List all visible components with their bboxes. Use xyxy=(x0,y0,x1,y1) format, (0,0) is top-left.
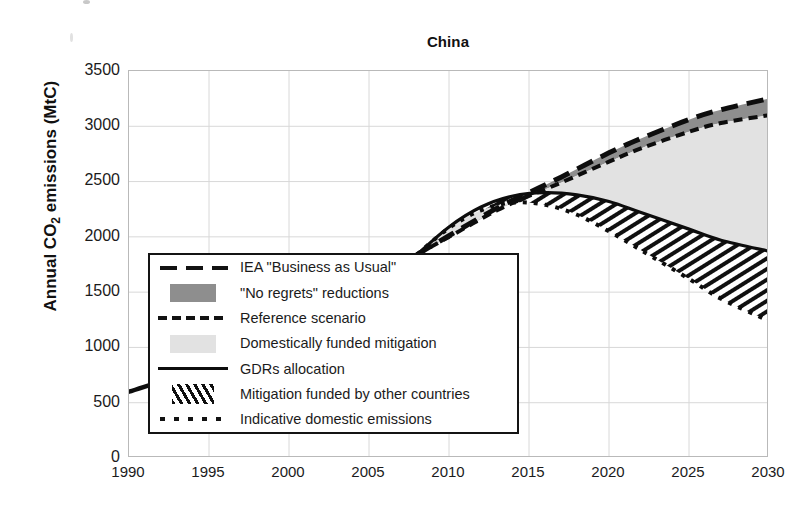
legend-item-reference-scenario[interactable]: Reference scenario xyxy=(150,306,517,331)
solid-line-icon xyxy=(158,359,232,379)
x-tick-label: 2010 xyxy=(413,463,483,480)
x-tick-label: 2005 xyxy=(333,463,403,480)
legend-item-indicative-domestic-emissions[interactable]: Indicative domestic emissions xyxy=(150,407,517,432)
figure-container: China Annual CO2 emissions (MtC) 3500 30… xyxy=(0,0,805,521)
dashed-long-line-icon xyxy=(158,258,232,278)
chart-legend[interactable]: IEA "Business as Usual" "No regrets" red… xyxy=(148,253,519,434)
x-tick-label: 2025 xyxy=(653,463,723,480)
x-tick-label: 1990 xyxy=(93,463,163,480)
x-tick-label: 2015 xyxy=(493,463,563,480)
legend-label: "No regrets" reductions xyxy=(240,286,389,301)
legend-label: GDRs allocation xyxy=(240,362,345,377)
y-axis-ticks: 3500 3000 2500 2000 1500 1000 500 0 xyxy=(0,0,120,521)
legend-label: Domestically funded mitigation xyxy=(240,336,437,351)
legend-item-domestically-funded-mitigation[interactable]: Domestically funded mitigation xyxy=(150,331,517,356)
y-tick-label: 2000 xyxy=(0,228,120,244)
legend-item-gdrs-allocation[interactable]: GDRs allocation xyxy=(150,356,517,381)
hatch-swatch-icon xyxy=(158,384,232,404)
y-tick-label: 2500 xyxy=(0,172,120,188)
legend-label: Mitigation funded by other countries xyxy=(240,387,470,402)
y-tick-label: 1500 xyxy=(0,283,120,299)
y-tick-label: 3000 xyxy=(0,117,120,133)
x-tick-label: 2030 xyxy=(733,463,803,480)
legend-label: IEA "Business as Usual" xyxy=(240,260,396,275)
chart-title: China xyxy=(128,33,768,50)
x-tick-label: 1995 xyxy=(173,463,243,480)
legend-label: Reference scenario xyxy=(240,311,366,326)
legend-item-bau[interactable]: IEA "Business as Usual" xyxy=(150,255,517,280)
y-tick-label: 500 xyxy=(0,394,120,410)
dark-grey-swatch-icon xyxy=(158,283,232,303)
light-grey-swatch-icon xyxy=(158,334,232,354)
legend-item-mitigation-funded-by-others[interactable]: Mitigation funded by other countries xyxy=(150,381,517,406)
legend-label: Indicative domestic emissions xyxy=(240,412,432,427)
y-tick-label: 3500 xyxy=(0,62,120,78)
legend-item-no-regrets[interactable]: "No regrets" reductions xyxy=(150,280,517,305)
x-tick-label: 2000 xyxy=(253,463,323,480)
x-tick-label: 2020 xyxy=(573,463,643,480)
y-tick-label: 1000 xyxy=(0,338,120,354)
dotted-line-icon xyxy=(158,409,232,429)
dashed-medium-line-icon xyxy=(158,308,232,328)
